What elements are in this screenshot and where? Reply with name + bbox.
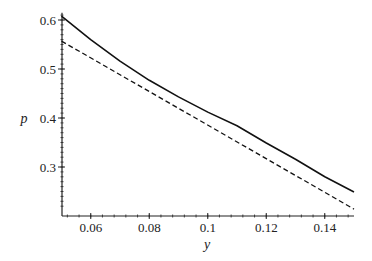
chart: 0.060.080.10.120.140.30.40.50.6 y p [0,0,372,261]
x-tick-label: 0.1 [200,220,216,235]
y-axis-label: p [20,111,28,126]
x-axis-label: y [202,237,211,252]
plot-svg: 0.060.080.10.120.140.30.40.50.6 y p [0,0,372,261]
axes: 0.060.080.10.120.140.30.40.50.6 [40,13,354,236]
y-tick-label: 0.6 [40,13,57,28]
x-tick-label: 0.08 [138,220,161,235]
dashed-line-series [62,41,355,209]
x-tick-label: 0.12 [255,220,278,235]
curves [62,16,355,209]
x-tick-label: 0.06 [79,220,102,235]
y-tick-label: 0.4 [40,111,57,126]
y-tick-label: 0.3 [40,160,56,175]
y-tick-label: 0.5 [40,62,56,77]
x-tick-label: 0.14 [313,220,336,235]
solid-line-series [62,16,355,192]
